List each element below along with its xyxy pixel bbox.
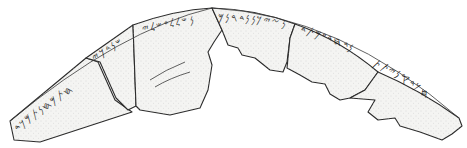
inscribed-rim-drawing: 𐤇𐤕𐤌𐤇𐤍𐤕𐤌𐤊𐤃 𐤔𐤍𐤃𐤊𐤉 𐤍𐤔𐤋𐤋𐤏𐤔𐤋𐤉 𐤍𐤆𐤉𐤊𐤍𐤍𐤃𐤓𐤍𐤌 𐤍𐤃𐤇𐤃…	[0, 0, 467, 148]
